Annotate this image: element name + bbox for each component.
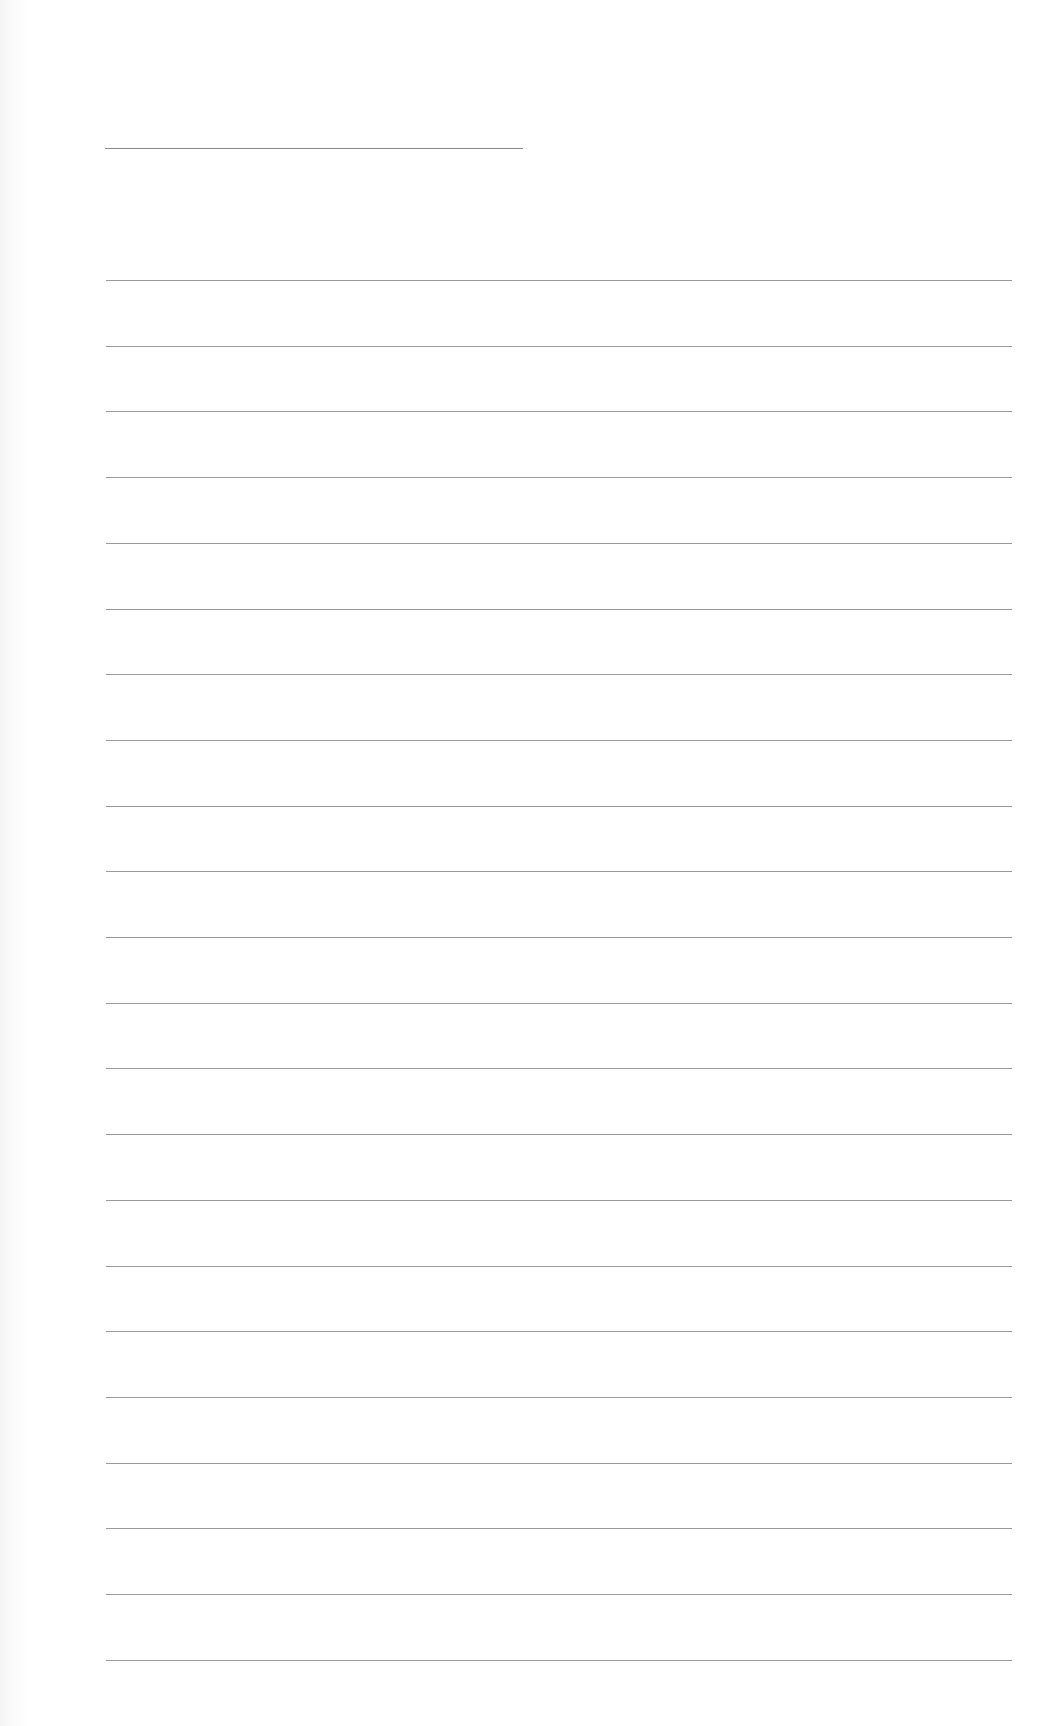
ruled-line: [106, 1134, 1012, 1135]
ruled-line: [106, 1331, 1012, 1332]
ruled-line: [106, 280, 1012, 281]
page-text: [0, 0, 1, 1]
ruled-line: [106, 871, 1012, 872]
title-underline: [105, 148, 523, 149]
ruled-line: [106, 1068, 1012, 1069]
ruled-line: [106, 1463, 1012, 1464]
ruled-line: [106, 1594, 1012, 1595]
ruled-line: [106, 1266, 1012, 1267]
ruled-line: [106, 1528, 1012, 1529]
ruled-line: [106, 806, 1012, 807]
ruled-line: [106, 1200, 1012, 1201]
ruled-line: [106, 1397, 1012, 1398]
ruled-line: [106, 1660, 1012, 1661]
ruled-line: [106, 1003, 1012, 1004]
ruled-paper-page: [0, 0, 1055, 1726]
ruled-line: [106, 937, 1012, 938]
ruled-line: [106, 477, 1012, 478]
ruled-line: [106, 674, 1012, 675]
ruled-line: [106, 346, 1012, 347]
ruled-line: [106, 543, 1012, 544]
ruled-line: [106, 609, 1012, 610]
ruled-line: [106, 740, 1012, 741]
ruled-line: [106, 411, 1012, 412]
